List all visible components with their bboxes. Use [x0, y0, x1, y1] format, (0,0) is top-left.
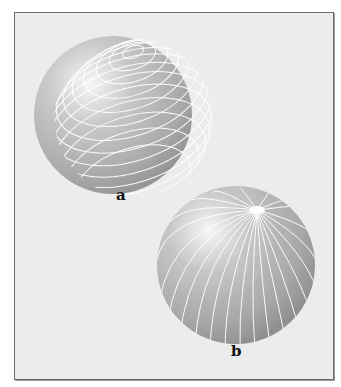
panel-label-b: b	[231, 342, 242, 360]
sphere-b	[157, 186, 318, 352]
pole-highlight	[249, 206, 265, 214]
figure-canvas	[0, 0, 341, 387]
panel-label-a: a	[116, 186, 126, 204]
